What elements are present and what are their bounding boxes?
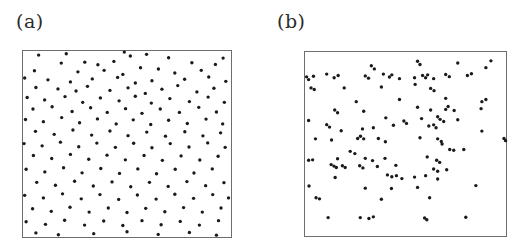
panel-b-label: (b) (277, 12, 306, 31)
panel-a-label: (a) (16, 12, 44, 31)
panel-a-scatter-points (23, 51, 231, 237)
panel-b-plot-box (304, 51, 507, 237)
figure-container: (a) (b) (0, 0, 523, 249)
panel-a-plot-box (22, 50, 232, 238)
panel-b-scatter-points (305, 52, 506, 236)
